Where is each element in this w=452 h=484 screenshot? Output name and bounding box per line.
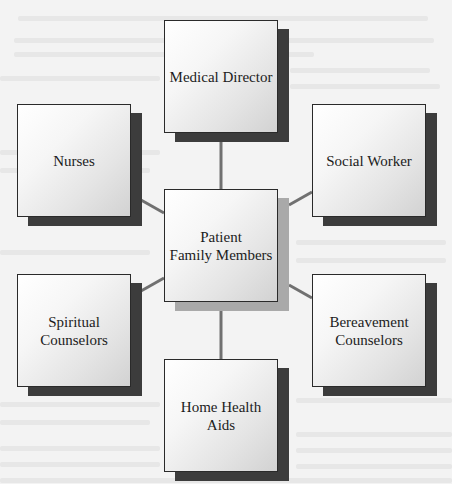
node-patient-family-members: Patient Family Members — [164, 189, 278, 302]
node-medical-director: Medical Director — [164, 20, 278, 133]
connector-social-worker — [289, 192, 312, 205]
node-spiritual-counselors: Spiritual Counselors — [17, 274, 131, 387]
box: Patient Family Members — [164, 189, 278, 302]
node-bereavement-counselors: Bereavement Counselors — [312, 274, 426, 387]
node-social-worker: Social Worker — [312, 104, 426, 217]
box: Spiritual Counselors — [17, 274, 131, 387]
box: Medical Director — [164, 20, 278, 133]
node-label: Bereavement Counselors — [329, 313, 408, 349]
node-label: Spiritual Counselors — [40, 313, 108, 349]
node-label: Patient Family Members — [170, 228, 273, 264]
connector-nurses — [141, 200, 164, 213]
box: Home Health Aids — [164, 359, 278, 472]
node-label: Nurses — [53, 152, 95, 170]
connector-bereavement-counselors — [289, 285, 312, 298]
node-label: Medical Director — [170, 68, 273, 86]
node-home-health-aids: Home Health Aids — [164, 359, 278, 472]
node-label: Home Health Aids — [181, 398, 261, 434]
box: Bereavement Counselors — [312, 274, 426, 387]
node-label: Social Worker — [326, 152, 412, 170]
connector-spiritual-counselors — [141, 278, 164, 291]
box: Social Worker — [312, 104, 426, 217]
node-nurses: Nurses — [17, 104, 131, 217]
box: Nurses — [17, 104, 131, 217]
